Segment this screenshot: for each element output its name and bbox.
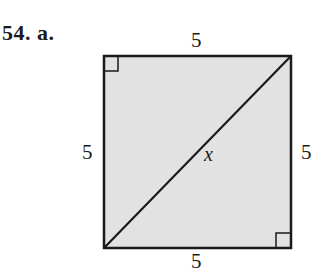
label-left: 5	[82, 140, 93, 165]
label-bottom: 5	[191, 249, 202, 272]
label-top: 5	[191, 28, 202, 53]
label-right: 5	[301, 140, 312, 165]
label-diagonal: x	[204, 143, 213, 166]
